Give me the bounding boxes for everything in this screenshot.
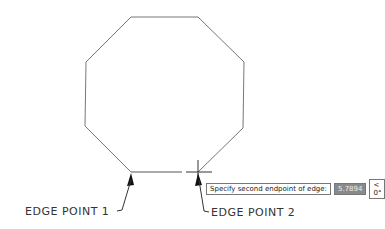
leader-arrow-1-icon — [117, 173, 134, 211]
edge-point-2-label: EDGE POINT 2 — [211, 206, 295, 219]
octagon-edges — [85, 17, 244, 172]
length-input[interactable]: 5.7894 — [334, 183, 367, 195]
dynamic-input-tooltip: Specify second endpoint of edge: 5.7894 … — [206, 179, 385, 199]
angle-input[interactable]: < 0° — [369, 179, 385, 199]
edge-point-1-label: EDGE POINT 1 — [25, 205, 109, 218]
prompt-text: Specify second endpoint of edge: — [206, 183, 331, 195]
